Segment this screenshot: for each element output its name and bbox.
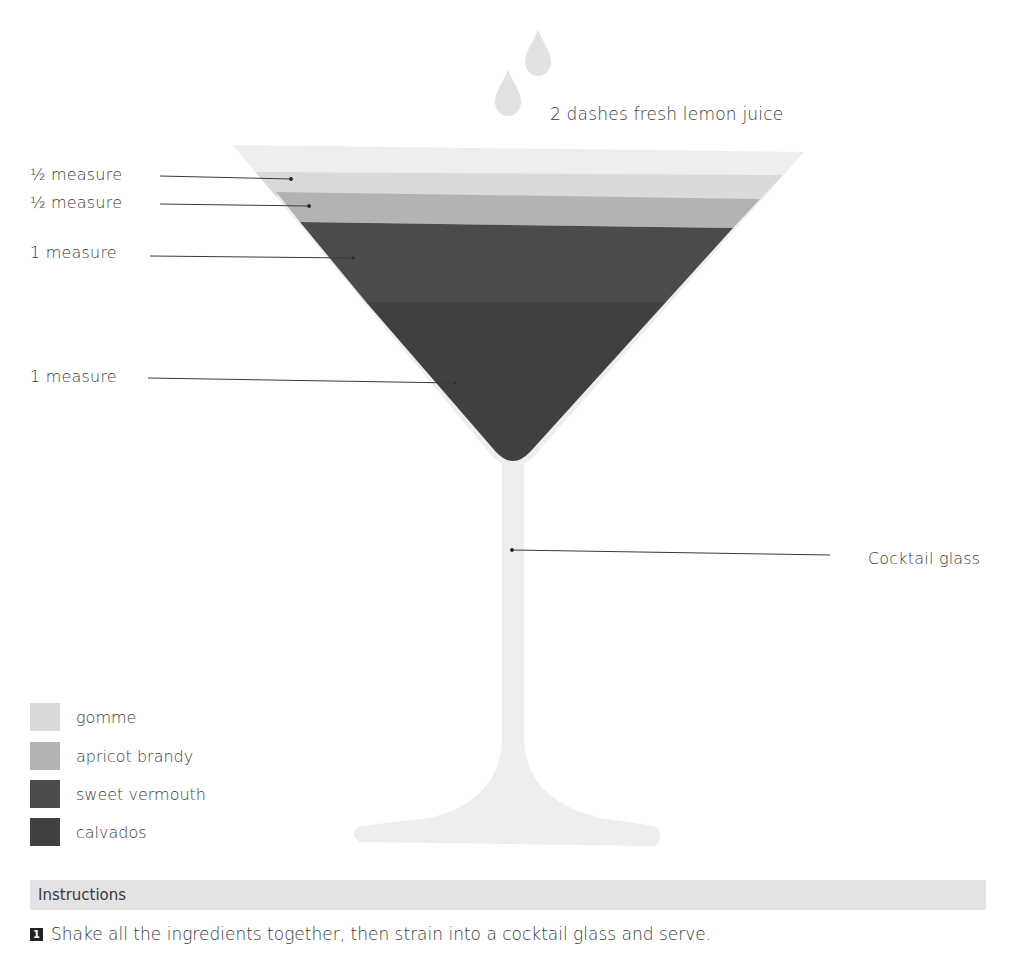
legend-label: calvados (76, 823, 147, 842)
legend-swatch (30, 703, 60, 731)
glass-label: Cocktail glass (868, 549, 980, 568)
layer-sweet-vermouth (300, 222, 733, 302)
legend-label: gomme (76, 708, 136, 727)
layer-calvados (366, 302, 666, 461)
legend-item-sweet-vermouth: sweet vermouth (30, 779, 206, 809)
measure-label-apricot-brandy: ½ measure (30, 193, 122, 212)
legend-swatch (30, 780, 60, 808)
measure-label-calvados: 1 measure (30, 367, 117, 386)
instructions-header: Instructions (30, 880, 986, 910)
instructions-title: Instructions (38, 886, 126, 904)
droplet-icon (495, 30, 551, 116)
cocktail-illustration (0, 0, 1030, 961)
legend-swatch (30, 818, 60, 846)
legend-item-calvados: calvados (30, 817, 147, 847)
garnish-label: 2 dashes fresh lemon juice (550, 104, 783, 124)
legend-label: apricot brandy (76, 747, 193, 766)
glass-stem (354, 462, 661, 846)
instruction-step: 1 Shake all the ingredients together, th… (30, 924, 711, 944)
legend-item-apricot-brandy: apricot brandy (30, 741, 193, 771)
legend-item-gomme: gomme (30, 702, 136, 732)
step-text: Shake all the ingredients together, then… (51, 924, 711, 944)
measure-label-gomme: ½ measure (30, 165, 122, 184)
step-number-badge: 1 (30, 928, 43, 941)
legend-label: sweet vermouth (76, 785, 206, 804)
legend-swatch (30, 742, 60, 770)
measure-label-sweet-vermouth: 1 measure (30, 243, 117, 262)
